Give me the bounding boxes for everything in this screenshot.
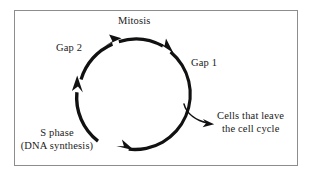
- label-s-phase: S phase (DNA synthesis): [17, 127, 97, 152]
- label-gap2: Gap 2: [56, 42, 82, 55]
- arrowhead-icon: [203, 119, 215, 127]
- arrowhead-icon: [116, 140, 134, 151]
- label-gap1: Gap 1: [191, 57, 217, 70]
- label-cells-leave-cycle: Cells that leave the cell cycle: [217, 110, 284, 135]
- s-phase-label-line-1: S phase: [17, 127, 97, 140]
- exit-label-line-1: Cells that leave: [217, 110, 284, 123]
- cell-cycle-diagram: [0, 0, 316, 179]
- exit-label-line-2: the cell cycle: [217, 123, 284, 136]
- figure-screenshot: Mitosis Gap 2 Gap 1 Cells that leave the…: [0, 0, 316, 179]
- s-phase-label-line-2: (DNA synthesis): [17, 140, 97, 153]
- label-mitosis: Mitosis: [118, 15, 151, 28]
